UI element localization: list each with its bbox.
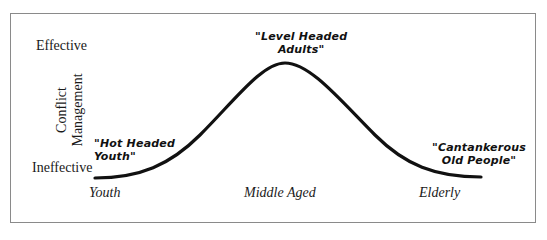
annotation-level-headed-adults: "Level Headed Adults" [255,30,347,56]
y-axis-low-label: Ineffective [32,160,92,176]
y-axis-title-line2: Management [70,73,86,146]
y-axis-high-label: Effective [36,38,87,54]
annotation-line: "Level Headed [255,30,347,43]
x-axis-label-elderly: Elderly [419,185,460,201]
y-axis-title-line1: Conflict [54,73,70,146]
x-axis-label-middle-aged: Middle Aged [244,185,316,201]
annotation-line: Adults" [255,43,347,56]
x-axis-label-youth: Youth [89,185,120,201]
y-axis-title: Conflict Management [54,73,86,146]
annotation-line: "Hot Headed [94,137,175,150]
annotation-line: "Cantankerous [432,141,526,154]
annotation-hot-headed-youth: "Hot Headed Youth" [94,137,175,163]
annotation-line: Old People" [432,154,526,167]
annotation-line: Youth" [94,150,175,163]
annotation-cantankerous-old-people: "Cantankerous Old People" [432,141,526,167]
